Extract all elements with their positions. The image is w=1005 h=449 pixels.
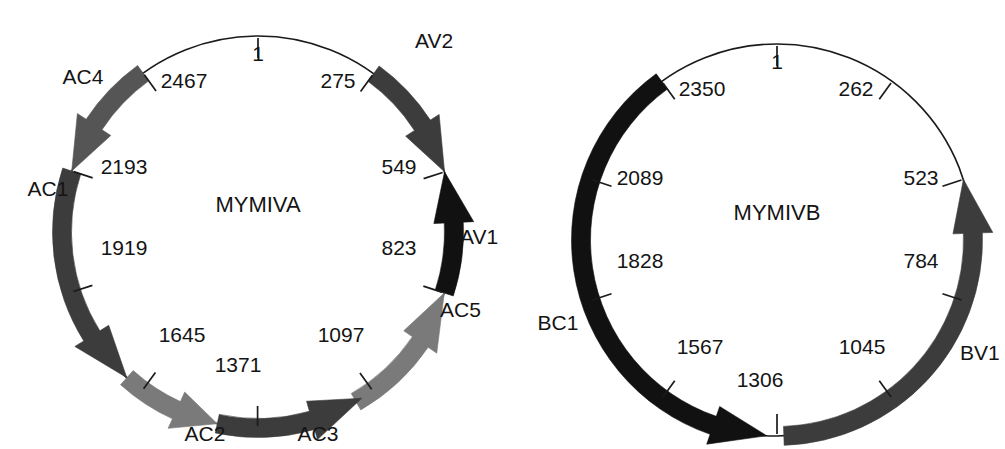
position-label-2467: 2467 [161, 69, 208, 92]
position-label-2193: 2193 [101, 155, 148, 178]
orf-label-ac3: AC3 [298, 422, 339, 445]
position-label-1371: 1371 [215, 353, 262, 376]
position-label-784: 784 [903, 249, 938, 272]
position-label-2089: 2089 [617, 166, 664, 189]
orf-label-ac5: AC5 [440, 298, 481, 321]
map-title-mymivb: MYMIVB [734, 200, 821, 225]
orf-label-ac4: AC4 [63, 65, 104, 88]
position-label-262: 262 [838, 77, 873, 100]
circular-genome-maps-figure: 1275549823109713711645191921932467AV2AV1… [0, 0, 1005, 449]
genome-map-mymiva: 1275549823109713711645191921932467AV2AV1… [28, 29, 499, 445]
position-label-1567: 1567 [677, 335, 724, 358]
position-label-549: 549 [381, 155, 416, 178]
position-label-823: 823 [381, 236, 416, 259]
position-label-1097: 1097 [318, 323, 365, 346]
orf-arrow-ac5[interactable] [351, 293, 444, 410]
position-label-1: 1 [252, 42, 264, 65]
position-label-1306: 1306 [737, 368, 784, 391]
position-label-275: 275 [320, 69, 355, 92]
orf-label-bc1: BC1 [538, 311, 579, 334]
position-label-2350: 2350 [679, 77, 726, 100]
genome-map-canvas: 1275549823109713711645191921932467AV2AV1… [0, 0, 1005, 449]
orf-arrow-ac2[interactable] [120, 371, 217, 429]
map-title-mymiva: MYMIVA [215, 192, 300, 217]
position-label-1645: 1645 [159, 323, 206, 346]
orf-label-av2: AV2 [415, 29, 453, 52]
position-label-1: 1 [771, 50, 783, 73]
position-label-1919: 1919 [101, 236, 148, 259]
position-label-1045: 1045 [839, 335, 886, 358]
position-label-523: 523 [903, 166, 938, 189]
genome-map-mymivb: 1262523784104513061567182820892350BV1BC1… [538, 44, 1000, 445]
position-tick-523 [942, 180, 961, 186]
orf-label-av1: AV1 [460, 225, 498, 248]
position-tick-262 [879, 83, 891, 99]
position-label-1828: 1828 [617, 249, 664, 272]
position-tick-549 [424, 172, 443, 178]
orf-label-bv1: BV1 [960, 341, 1000, 364]
orf-label-ac2: AC2 [185, 422, 226, 445]
orf-arrow-ac3[interactable] [215, 398, 362, 439]
orf-label-ac1: AC1 [28, 177, 69, 200]
